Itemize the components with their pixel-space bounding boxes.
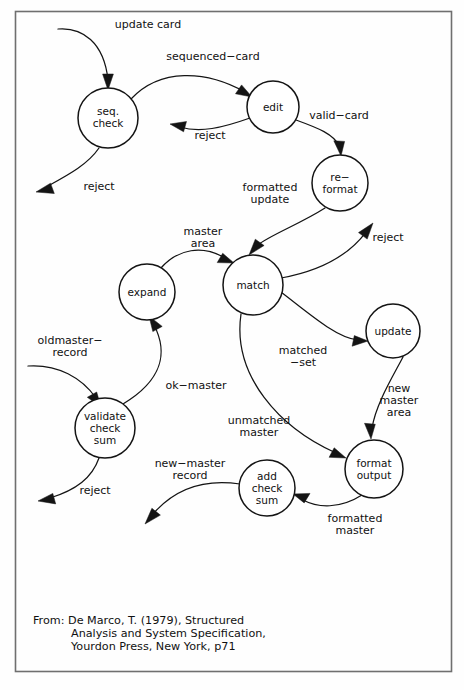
process-edit-label: edit — [263, 101, 283, 113]
flow-arrow-new-master-record — [145, 483, 240, 524]
flow-label-update-card: update card — [115, 18, 181, 31]
process-update[interactable]: update — [366, 304, 420, 358]
process-re-format-label-line-1: re− — [330, 171, 349, 183]
process-validate-check-sum-label-line-3: sum — [94, 434, 116, 446]
flow-label-reject-edit: reject — [194, 129, 226, 142]
flow-arrow-reject-validate — [38, 458, 99, 504]
process-add-check-sum-label-line-1: add — [257, 470, 277, 482]
flow-label-reject-seq-check: reject — [83, 180, 115, 193]
flow-arrow-reject-match — [281, 223, 373, 278]
process-format-output-label-line-1: format — [356, 457, 391, 469]
flow-arrow-matched-set — [281, 292, 368, 346]
process-add-check-sum-label-line-3: sum — [256, 494, 278, 506]
flow-arrow-ok-master — [123, 316, 162, 404]
process-seq-check[interactable]: seq. check — [78, 88, 138, 148]
process-match[interactable]: match — [223, 255, 283, 315]
source-caption-line-1: From: De Marco, T. (1979), Structured — [33, 614, 244, 627]
flow-label-master-area-line-2: area — [191, 237, 216, 250]
process-format-output[interactable]: format output — [345, 440, 403, 498]
flow-label-reject-validate: reject — [79, 484, 111, 497]
process-re-format-label-line-2: format — [322, 183, 357, 195]
process-validate-check-sum-label-line-2: check — [90, 422, 122, 434]
process-expand[interactable]: expand — [119, 264, 175, 320]
process-validate-check-sum-label-line-1: validate — [84, 410, 126, 422]
source-caption-line-2: Analysis and System Specification, — [71, 627, 266, 640]
flow-arrow-valid-card — [296, 120, 345, 156]
flow-label-new-master-record-line-2: record — [172, 469, 207, 482]
process-expand-label: expand — [128, 286, 167, 298]
process-add-check-sum[interactable]: add check sum — [239, 460, 295, 516]
diagram-canvas: seq. check edit re− format match expand … — [0, 0, 464, 690]
flow-label-matched-set-line-2: −set — [290, 356, 317, 369]
flow-label-reject-match: reject — [372, 231, 404, 244]
process-seq-check-label-line-2: check — [93, 117, 125, 129]
source-caption-line-3: Yourdon Press, New York, p71 — [70, 640, 236, 653]
flow-label-oldmaster-record-line-2: record — [52, 346, 87, 359]
process-re-format[interactable]: re− format — [312, 155, 368, 211]
process-edit[interactable]: edit — [247, 81, 299, 133]
process-match-label: match — [236, 279, 269, 291]
flow-label-sequenced-card: sequenced−card — [166, 50, 259, 63]
flow-label-formatted-update-line-2: update — [251, 193, 290, 206]
flow-arrow-formatted-update — [249, 208, 325, 255]
flow-arrow-formatted-master — [293, 493, 362, 505]
flow-label-unmatched-master-line-2: master — [240, 426, 279, 439]
process-seq-check-label-line-1: seq. — [97, 105, 119, 117]
flow-label-ok-master: ok−master — [165, 379, 227, 392]
flow-arrow-master-area — [160, 250, 234, 269]
flow-label-valid-card: valid−card — [309, 109, 369, 122]
data-flow-diagram: seq. check edit re− format match expand … — [0, 0, 464, 690]
source-caption: From: De Marco, T. (1979), Structured An… — [33, 614, 266, 653]
process-add-check-sum-label-line-2: check — [252, 482, 284, 494]
flow-label-formatted-master-line-2: master — [336, 524, 375, 537]
flow-arrow-sequenced-card — [131, 76, 252, 99]
process-format-output-label-line-2: output — [357, 469, 392, 481]
process-update-label: update — [375, 325, 412, 337]
process-validate-check-sum[interactable]: validate check sum — [75, 398, 135, 458]
flow-label-new-master-area-line-3: area — [387, 406, 412, 419]
flow-arrow-update-card — [58, 29, 113, 90]
flow-arrow-oldmaster-record — [28, 366, 101, 407]
